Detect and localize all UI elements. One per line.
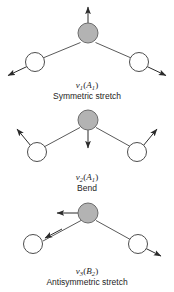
caption-antisymmetric-stretch: ν3(B2) Antisymmetric stretch <box>0 266 174 288</box>
mode-diagram-bend <box>0 100 174 172</box>
bond-right <box>96 128 133 149</box>
mode-diagram-symmetric-stretch <box>0 2 174 80</box>
bond-left <box>42 128 80 149</box>
right-atom <box>130 53 149 72</box>
arrow-right-up-right <box>143 129 157 146</box>
left-atom <box>28 143 47 162</box>
bond-left <box>41 43 81 60</box>
bond-right <box>96 221 133 242</box>
vibrational-modes-figure: ν1(A1) Symmetric stretch ν2(A1) <box>0 0 174 292</box>
bond-right <box>96 43 134 60</box>
mode-symbol: ν3(B2) <box>0 266 174 277</box>
mode-diagram-antisymmetric-stretch <box>0 196 174 266</box>
mode-symbol: ν1(A1) <box>0 80 174 91</box>
paren-close: ) <box>95 172 98 182</box>
paren-close: ) <box>95 80 98 90</box>
bond-left <box>43 221 81 242</box>
left-atom <box>26 53 45 72</box>
paren-close: ) <box>95 266 98 276</box>
mode-block-bend: ν2(A1) Bend <box>0 100 174 194</box>
mode-name: Antisymmetric stretch <box>0 278 174 288</box>
arrow-left-down-left <box>8 67 27 76</box>
caption-bend: ν2(A1) Bend <box>0 172 174 194</box>
central-atom <box>78 23 98 43</box>
central-atom <box>78 203 98 223</box>
caption-symmetric-stretch: ν1(A1) Symmetric stretch <box>0 80 174 102</box>
right-atom <box>129 235 148 254</box>
arrow-left-up-left <box>17 129 31 146</box>
arrow-left-up-right <box>45 229 62 238</box>
left-atom <box>24 235 43 254</box>
mode-block-symmetric-stretch: ν1(A1) Symmetric stretch <box>0 2 174 102</box>
mode-symbol: ν2(A1) <box>0 172 174 183</box>
mode-name: Bend <box>0 184 174 194</box>
right-atom <box>128 143 147 162</box>
central-atom <box>78 110 98 130</box>
mode-block-antisymmetric-stretch: ν3(B2) Antisymmetric stretch <box>0 196 174 288</box>
arrow-right-down-right <box>147 67 166 76</box>
